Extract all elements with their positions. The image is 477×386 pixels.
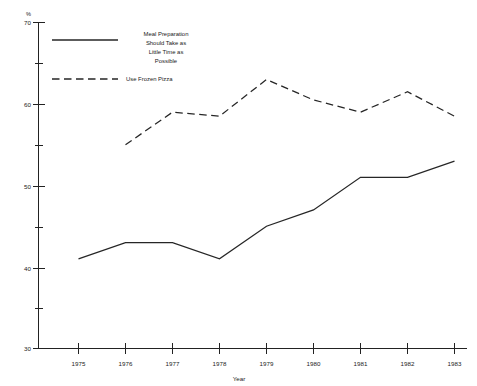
y-tick-label-40: 40 — [24, 265, 31, 272]
x-tick-label-1983: 1983 — [448, 360, 462, 367]
y-tick-label-60: 60 — [24, 101, 31, 108]
legend-label-meal-preparation-line-2: Should Take as — [146, 40, 186, 46]
legend-label-meal-preparation-line-1: Meal Preparation — [144, 31, 189, 37]
x-tick-label-1982: 1982 — [401, 360, 415, 367]
chart-canvas: % 70 60 50 40 30 1975 1976 1977 1978 197… — [0, 0, 477, 386]
x-axis-title: Year — [233, 375, 246, 382]
x-tick-label-1977: 1977 — [166, 360, 180, 367]
line-chart: % 70 60 50 40 30 1975 1976 1977 1978 197… — [0, 0, 477, 386]
series-line-meal-preparation — [79, 161, 455, 259]
x-tick-label-1979: 1979 — [260, 360, 274, 367]
legend-label-use-frozen-pizza: Use Frozen Pizza — [126, 76, 173, 82]
legend-label-meal-preparation-line-3: Little Time as — [149, 49, 184, 55]
y-tick-label-70: 70 — [24, 19, 31, 26]
y-tick-label-30: 30 — [24, 345, 31, 352]
y-tick-label-50: 50 — [24, 183, 31, 190]
x-tick-label-1980: 1980 — [307, 360, 321, 367]
y-axis-ticks: % 70 60 50 40 30 — [24, 11, 45, 352]
series-group — [79, 80, 455, 259]
legend-label-meal-preparation-line-4: Possible — [155, 58, 178, 64]
x-tick-label-1981: 1981 — [354, 360, 368, 367]
x-tick-label-1976: 1976 — [119, 360, 133, 367]
legend: Meal Preparation Should Take as Little T… — [52, 31, 188, 82]
x-tick-label-1978: 1978 — [213, 360, 227, 367]
series-line-use-frozen-pizza — [126, 80, 455, 145]
y-axis-unit-label: % — [26, 11, 31, 17]
x-tick-label-1975: 1975 — [72, 360, 86, 367]
axis-group — [39, 22, 468, 349]
